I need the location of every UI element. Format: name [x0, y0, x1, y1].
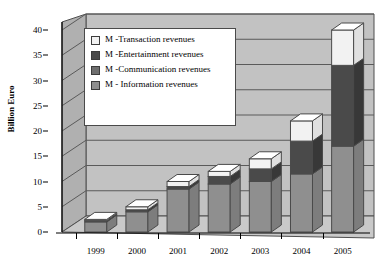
- legend-item[interactable]: M -Communication revenues: [91, 64, 231, 75]
- chart-container: 0510152025303540 Billion Euro 1999200020…: [0, 0, 388, 268]
- legend-item[interactable]: M -Entertainment revenues: [91, 49, 231, 60]
- legend-swatch-icon: [91, 81, 100, 90]
- x-tick-label: 2004: [279, 246, 323, 256]
- x-tick-label: 2001: [156, 246, 200, 256]
- x-tick-label: 2005: [321, 246, 365, 256]
- x-tick-mark: [281, 233, 282, 239]
- x-tick-label: 2003: [238, 246, 282, 256]
- legend-item[interactable]: M -Transaction revenues: [91, 34, 231, 45]
- legend-label: M -Transaction revenues: [105, 34, 195, 45]
- legend-label: M -Entertainment revenues: [105, 49, 203, 60]
- chart-legend: M -Transaction revenuesM -Entertainment …: [84, 28, 236, 126]
- legend-swatch-icon: [91, 51, 100, 60]
- x-tick-mark: [199, 233, 200, 239]
- legend-label: M -Communication revenues: [105, 64, 210, 75]
- legend-label: M - Information revenues: [105, 79, 198, 90]
- x-tick-mark: [117, 233, 118, 239]
- x-tick-label: 1999: [74, 246, 118, 256]
- x-tick-mark: [240, 233, 241, 239]
- x-tick-mark: [323, 233, 324, 239]
- x-tick-label: 2002: [197, 246, 241, 256]
- x-tick-label: 2000: [115, 246, 159, 256]
- x-tick-mark: [158, 233, 159, 239]
- legend-swatch-icon: [91, 66, 100, 75]
- legend-swatch-icon: [91, 36, 100, 45]
- x-tick-mark: [76, 233, 77, 239]
- legend-item[interactable]: M - Information revenues: [91, 79, 231, 90]
